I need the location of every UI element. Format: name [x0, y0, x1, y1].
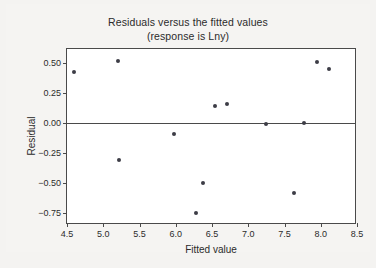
data-point	[194, 211, 198, 215]
x-tick-mark	[357, 223, 358, 227]
data-point	[315, 60, 319, 64]
y-tick-mark	[63, 153, 67, 154]
x-tick-label: 5.0	[97, 229, 110, 239]
data-point	[225, 102, 229, 106]
plot-area: 0.500.250.00−0.25−0.50−0.75 4.55.05.56.0…	[66, 48, 356, 224]
data-point	[302, 121, 306, 125]
x-tick-label: 5.5	[133, 229, 146, 239]
x-tick-label: 6.5	[206, 229, 219, 239]
x-tick-mark	[285, 223, 286, 227]
x-tick-label: 6.0	[169, 229, 182, 239]
data-point	[264, 122, 268, 126]
x-tick-mark	[248, 223, 249, 227]
x-tick-mark	[212, 223, 213, 227]
data-point	[117, 158, 121, 162]
y-tick-mark	[63, 63, 67, 64]
y-axis-title: Residual	[26, 117, 37, 156]
y-tick-label: 0.50	[43, 58, 61, 68]
x-tick-label: 7.5	[278, 229, 291, 239]
data-point	[327, 67, 331, 71]
data-point	[116, 59, 120, 63]
data-point	[172, 132, 176, 136]
data-point	[213, 104, 217, 108]
y-tick-label: 0.25	[43, 88, 61, 98]
x-tick-label: 4.5	[61, 229, 74, 239]
data-point	[72, 70, 76, 74]
y-tick-mark	[63, 183, 67, 184]
data-point	[201, 181, 205, 185]
x-axis-title: Fitted value	[66, 244, 356, 255]
x-tick-mark	[176, 223, 177, 227]
y-tick-label: 0.00	[43, 118, 61, 128]
data-point	[292, 191, 296, 195]
x-tick-mark	[67, 223, 68, 227]
y-tick-mark	[63, 123, 67, 124]
residual-plot-figure: Residuals versus the fitted values (resp…	[0, 0, 376, 268]
y-tick-mark	[63, 213, 67, 214]
y-tick-label: −0.75	[38, 208, 61, 218]
x-tick-mark	[103, 223, 104, 227]
x-tick-label: 8.5	[351, 229, 364, 239]
y-tick-label: −0.50	[38, 178, 61, 188]
y-tick-label: −0.25	[38, 148, 61, 158]
chart-subtitle: (response is Lny)	[6, 30, 370, 42]
plot-card: Residuals versus the fitted values (resp…	[6, 4, 370, 252]
x-tick-mark	[140, 223, 141, 227]
x-tick-mark	[321, 223, 322, 227]
chart-title: Residuals versus the fitted values	[6, 16, 370, 28]
x-tick-label: 7.0	[242, 229, 255, 239]
zero-reference-line	[67, 123, 355, 124]
y-tick-mark	[63, 93, 67, 94]
x-tick-label: 8.0	[314, 229, 327, 239]
